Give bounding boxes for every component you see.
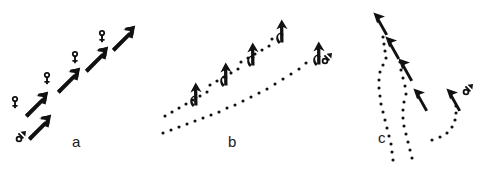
arrow-up-right-icon [25,91,48,117]
panel-c-item-4 [413,89,428,112]
panel-b-item-4 [276,20,287,44]
panel-label-c: c [378,130,386,145]
arrow-up-left-icon [446,89,461,112]
panel-b-item-3 [247,43,258,67]
female-symbol-icon [99,30,105,42]
arrow-up-right-icon [85,46,108,72]
panel-label-a: a [72,134,80,149]
panel-c-item-1 [373,13,388,36]
arrow-up-right-icon [57,67,80,93]
panel-c-item-5 [446,84,473,112]
arrow-up-left-icon [385,37,400,60]
male-symbol-icon [463,84,473,95]
panel-label-b: b [228,134,236,149]
panel-b-trajectory-lower [161,61,307,134]
panel-a-item-3 [44,67,80,93]
male-symbol-icon [16,131,26,142]
panel-b-item-2 [220,63,231,87]
figure-canvas: a b c [0,0,484,169]
panel-c-item-2 [385,37,400,60]
arrow-up-left-icon [413,89,428,112]
male-symbol-icon [322,53,332,64]
arrow-hook-up-icon [247,43,258,67]
panel-b-group [161,20,332,135]
panel-b-item-5 [313,42,332,66]
panel-c-group [373,13,473,162]
female-symbol-icon [72,51,78,63]
panel-c-trajectory-right [430,104,457,141]
arrow-up-left-icon [373,13,388,36]
panel-b-trajectory-upper [163,37,273,117]
panel-a-item-1 [16,114,52,142]
arrow-up-right-icon [112,25,135,51]
arrow-hook-up-icon [276,20,287,44]
arrow-hook-up-icon [220,63,231,87]
arrow-up-right-icon [28,114,51,140]
panel-a-group [12,25,135,142]
female-symbol-icon [12,96,18,108]
female-symbol-icon [44,72,50,84]
panel-a-item-2 [12,91,48,117]
panel-c-trajectory-center [398,60,413,159]
